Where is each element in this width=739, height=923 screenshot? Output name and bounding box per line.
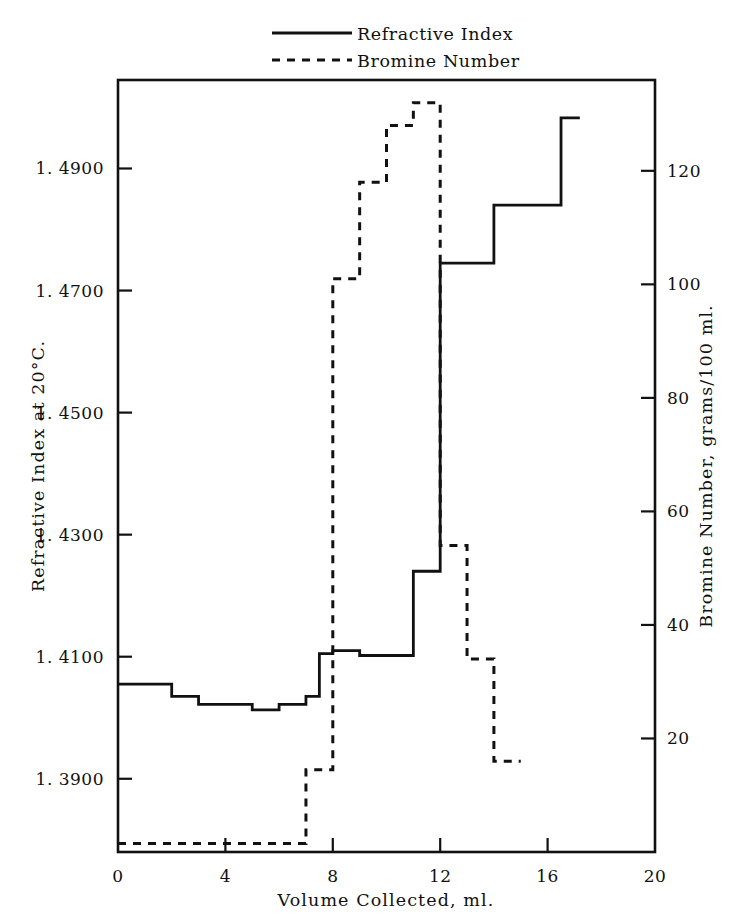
y-tick-label-right: 20 — [667, 728, 690, 748]
x-tick-label: 0 — [112, 866, 123, 886]
step-chart: Refractive Index Bromine Number 1. 39001… — [0, 0, 739, 923]
y-tick-label-left: 1. 4700 — [36, 281, 104, 301]
y-tick-label-right: 40 — [667, 615, 690, 635]
y-tick-label-right: 100 — [667, 274, 701, 294]
y-axis-title-left: Refractive Index at 20°C. — [28, 340, 48, 592]
y-tick-label-left: 1. 4100 — [36, 647, 104, 667]
x-axis-ticks — [225, 838, 547, 852]
y-tick-label-right: 120 — [667, 161, 701, 181]
y-tick-label-left: 1. 3900 — [36, 769, 104, 789]
x-axis-title: Volume Collected, ml. — [277, 890, 495, 910]
x-tick-label: 4 — [220, 866, 231, 886]
legend-label-bromine-number: Bromine Number — [357, 51, 520, 71]
x-tick-label: 8 — [327, 866, 338, 886]
y-tick-label-right: 60 — [667, 501, 690, 521]
y-tick-label-left: 1. 4900 — [36, 158, 104, 178]
series-line-refractive-index — [118, 118, 580, 710]
x-tick-label: 20 — [644, 866, 667, 886]
y-axis-ticks-left — [118, 168, 132, 778]
legend-label-refractive-index: Refractive Index — [357, 24, 513, 44]
y-tick-label-right: 80 — [667, 388, 690, 408]
x-tick-label: 12 — [429, 866, 452, 886]
y-axis-title-right: Bromine Number, grams/100 ml. — [696, 304, 716, 628]
series-line-bromine-number — [118, 103, 521, 844]
plot-frame — [118, 80, 655, 852]
x-axis-tick-labels: 048121620 — [112, 866, 666, 886]
y-axis-ticks-right — [641, 171, 655, 739]
x-tick-label: 16 — [536, 866, 559, 886]
legend: Refractive Index Bromine Number — [272, 24, 520, 71]
chart-figure: Refractive Index Bromine Number 1. 39001… — [0, 0, 739, 923]
